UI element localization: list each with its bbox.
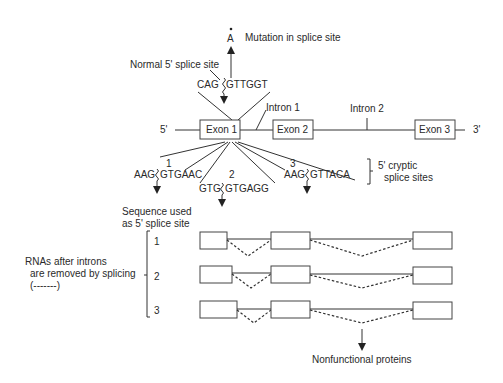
fan-line [232, 142, 275, 183]
cryptic-site-2-right: GTGAGG [225, 183, 269, 194]
spliced-out-intron [227, 240, 271, 256]
cryptic-bracket [367, 159, 373, 184]
exon-3-label: Exon 3 [419, 124, 451, 135]
rna-row-2 [200, 266, 452, 288]
mutation-base: A [227, 33, 234, 44]
fan-line [160, 142, 225, 157]
cryptic-site-1-num: 1 [166, 158, 172, 169]
spliced-rnas: Sequence used as 5' splice site RNAs aft… [25, 206, 452, 365]
row-1-num: 1 [154, 236, 160, 247]
fan-line [200, 142, 230, 183]
exon-3-box [413, 232, 452, 249]
exon-3-box [413, 302, 452, 319]
intron-2-label: Intron 2 [350, 103, 384, 114]
result-label: Nonfunctional proteins [312, 354, 412, 365]
fan-line [235, 142, 285, 170]
normal-seq-left: CAG [197, 79, 219, 90]
cryptic-site-1-left: AAG [134, 169, 155, 180]
cryptic-site-1-right: GTGAAC [160, 169, 202, 180]
cryptic-site-3-num: 3 [290, 158, 296, 169]
row-3-num: 3 [154, 305, 160, 316]
row-2-num: 2 [154, 271, 160, 282]
exon-2-box [271, 301, 310, 318]
rna-bracket [144, 231, 150, 317]
exon-2-box [271, 266, 310, 283]
spliced-out-intron [232, 274, 271, 288]
gene-structure: 5' Exon 1 Exon 2 Exon 3 3' Intron 1 Intr… [160, 102, 481, 139]
cryptic-site-2-left: GTG [199, 183, 221, 194]
cryptic-site-2-num: 2 [229, 169, 235, 180]
exon-1-fragment [200, 232, 227, 249]
rna-header-line2: as 5' splice site [122, 218, 190, 229]
splicing-diagram: A Mutation in splice site Normal 5' spli… [0, 0, 503, 383]
intron-1-label: Intron 1 [266, 102, 300, 113]
side-label-line1: RNAs after introns [25, 256, 107, 267]
cryptic-label-line2: splice sites [384, 172, 433, 183]
three-prime-label: 3' [473, 124, 481, 135]
mutation-dot-icon [230, 28, 233, 31]
cryptic-site-3-left: AAG [284, 169, 305, 180]
rna-header-line1: Sequence used [122, 206, 192, 217]
exon-3-box [413, 267, 452, 284]
exon-2-box [271, 232, 310, 249]
exon-1-label: Exon 1 [206, 124, 238, 135]
normal-seq-right: GTTGGT [226, 79, 268, 90]
normal-site-label: Normal 5' splice site [130, 59, 220, 70]
exon-1-fragment [200, 266, 232, 283]
cryptic-site-3-right: GTTACA [310, 169, 350, 180]
spliced-out-intron [237, 310, 271, 323]
cryptic-splice-sites: 1 AAG GTGAAC 2 GTG GTGAGG 3 AAG GTTACA 5… [134, 142, 433, 203]
rna-row-1 [200, 232, 452, 256]
spliced-out-intron [310, 240, 413, 256]
intron-1-pointer [256, 110, 266, 130]
cryptic-label-line1: 5' cryptic [378, 160, 417, 171]
spliced-out-intron [310, 310, 413, 323]
exon-1-fragment [200, 301, 237, 318]
squiggle-cut-icon [156, 169, 159, 181]
normal-splice-site: Normal 5' splice site CAG GTTGGT [130, 59, 270, 120]
mutation-annotation: A Mutation in splice site [227, 28, 341, 78]
expansion-line [198, 92, 232, 120]
squiggle-cut-icon [306, 169, 309, 181]
five-prime-label: 5' [160, 124, 168, 135]
side-label-line3: (-------) [30, 280, 60, 291]
side-label-line2: are removed by splicing [30, 268, 136, 279]
rna-row-3 [200, 301, 452, 323]
mutation-label: Mutation in splice site [245, 32, 341, 43]
squiggle-cut-icon [221, 183, 224, 195]
exon-2-label: Exon 2 [277, 124, 309, 135]
spliced-out-intron [310, 275, 413, 288]
